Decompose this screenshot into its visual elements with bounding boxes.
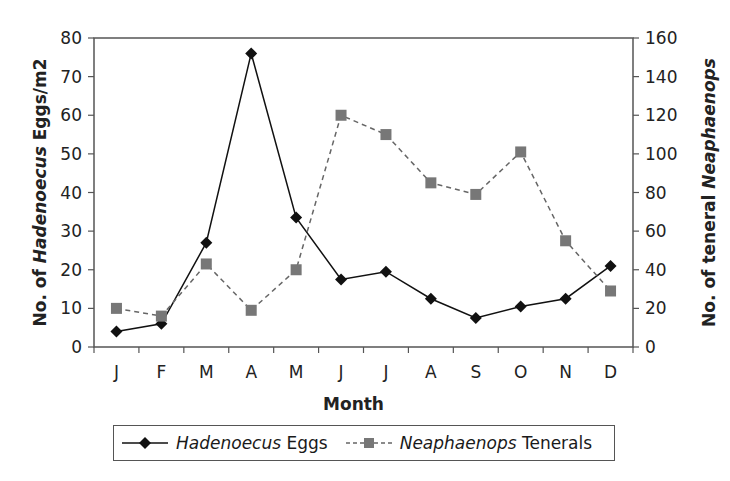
x-tick-label: A bbox=[425, 362, 437, 382]
x-tick-label: O bbox=[514, 362, 527, 382]
data-point-diamond bbox=[380, 266, 392, 278]
data-point-diamond bbox=[470, 312, 482, 324]
x-tick-label: A bbox=[245, 362, 257, 382]
x-tick-label: M bbox=[199, 362, 214, 382]
data-point-square bbox=[425, 177, 436, 188]
data-point-diamond bbox=[335, 273, 347, 285]
data-point-diamond bbox=[425, 293, 437, 305]
y-tick-label: 40 bbox=[60, 183, 82, 203]
x-tick-label: J bbox=[338, 362, 344, 382]
data-point-square bbox=[515, 146, 526, 157]
line-chart: 01020304050607080020406080100120140160JF… bbox=[0, 0, 730, 425]
y2-tick-label: 140 bbox=[645, 67, 677, 87]
legend-label-italic: Neaphaenops bbox=[400, 433, 517, 453]
y2-tick-label: 100 bbox=[645, 144, 677, 164]
x-tick-label: J bbox=[113, 362, 119, 382]
y2-tick-label: 120 bbox=[645, 105, 677, 125]
data-point-square bbox=[560, 235, 571, 246]
data-point-diamond bbox=[560, 293, 572, 305]
data-point-diamond bbox=[245, 47, 257, 59]
x-tick-label: M bbox=[289, 362, 304, 382]
dashed-square-marker-icon bbox=[344, 436, 394, 450]
x-axis-title: Month bbox=[323, 394, 384, 414]
x-tick-label: N bbox=[559, 362, 572, 382]
legend-label-rest: Eggs bbox=[281, 433, 328, 453]
y-tick-label: 20 bbox=[60, 260, 82, 280]
y2-tick-label: 20 bbox=[645, 298, 667, 318]
y2-tick-label: 0 bbox=[645, 337, 656, 357]
solid-diamond-marker-icon bbox=[120, 436, 170, 450]
x-tick-label: S bbox=[470, 362, 481, 382]
data-point-diamond bbox=[110, 326, 122, 338]
y2-tick-label: 160 bbox=[645, 28, 677, 48]
x-tick-label: F bbox=[156, 362, 166, 382]
data-point-diamond bbox=[290, 212, 302, 224]
series-line bbox=[116, 115, 610, 316]
y-tick-label: 70 bbox=[60, 67, 82, 87]
legend-label-rest: Tenerals bbox=[517, 433, 593, 453]
y-tick-label: 50 bbox=[60, 144, 82, 164]
legend-label-italic: Hadenoecus bbox=[176, 433, 281, 453]
y-tick-label: 60 bbox=[60, 105, 82, 125]
x-tick-label: D bbox=[604, 362, 617, 382]
data-point-diamond bbox=[200, 237, 212, 249]
data-point-square bbox=[111, 303, 122, 314]
y-tick-label: 80 bbox=[60, 28, 82, 48]
data-point-square bbox=[156, 311, 167, 322]
y-tick-label: 10 bbox=[60, 298, 82, 318]
data-point-square bbox=[605, 285, 616, 296]
y-axis-title: No. of Hadenoecus Eggs/m2 bbox=[30, 58, 50, 326]
data-point-square bbox=[470, 189, 481, 200]
data-point-square bbox=[291, 264, 302, 275]
y2-tick-label: 60 bbox=[645, 221, 667, 241]
legend: Hadenoecus Eggs Neaphaenops Tenerals bbox=[113, 425, 615, 461]
y-tick-label: 30 bbox=[60, 221, 82, 241]
data-point-square bbox=[246, 305, 257, 316]
x-tick-label: J bbox=[382, 362, 388, 382]
y-tick-label: 0 bbox=[71, 337, 82, 357]
legend-item-neaphaenops: Neaphaenops Tenerals bbox=[344, 433, 592, 453]
y2-axis-title: No. of teneral Neaphaenops bbox=[699, 58, 719, 327]
y2-tick-label: 80 bbox=[645, 183, 667, 203]
data-point-square bbox=[380, 129, 391, 140]
data-point-diamond bbox=[605, 260, 617, 272]
y2-tick-label: 40 bbox=[645, 260, 667, 280]
data-point-square bbox=[336, 110, 347, 121]
series-line bbox=[116, 53, 610, 331]
legend-item-hadenoecus: Hadenoecus Eggs bbox=[120, 433, 328, 453]
data-point-diamond bbox=[515, 300, 527, 312]
data-point-square bbox=[201, 258, 212, 269]
